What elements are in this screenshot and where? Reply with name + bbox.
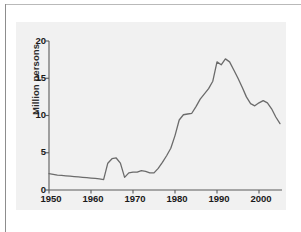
chart-figure: Million persons 20 15 10 5 0 1950 1960 1…	[16, 22, 286, 210]
x-tick-label-group: 1950 1960 1970 1980 1990 2000	[16, 22, 286, 210]
page-canvas: Million persons 20 15 10 5 0 1950 1960 1…	[0, 0, 301, 232]
x-tick-label-1950: 1950	[34, 194, 68, 204]
page-top-rule	[5, 4, 301, 5]
x-tick-label-1980: 1980	[160, 194, 194, 204]
x-tick-label-2000: 2000	[244, 194, 278, 204]
x-tick-label-1960: 1960	[76, 194, 110, 204]
x-tick-label-1990: 1990	[202, 194, 236, 204]
page-left-rule	[5, 4, 6, 232]
x-tick-label-1970: 1970	[118, 194, 152, 204]
